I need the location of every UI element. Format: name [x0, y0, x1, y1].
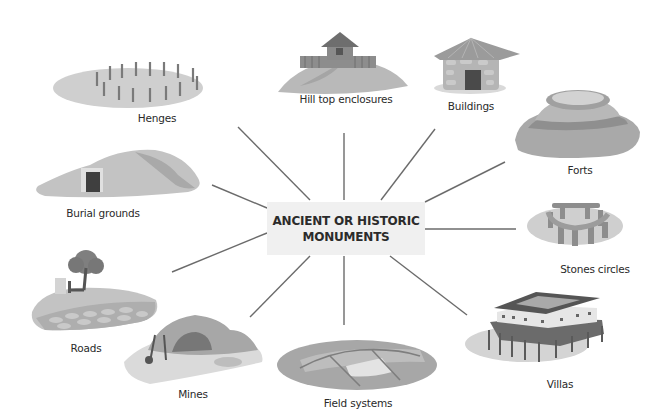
node-label-henges: Henges [138, 112, 176, 124]
node-label-field: Field systems [324, 397, 392, 409]
center-topic-box: ANCIENT OR HISTORIC MONUMENTS [267, 202, 425, 255]
node-label-mines: Mines [178, 388, 208, 400]
connector-henges [238, 127, 310, 200]
stone-circles-illustration [527, 203, 623, 246]
buildings-illustration [434, 38, 520, 94]
node-label-villas: Villas [547, 378, 573, 390]
connector-mines [250, 256, 310, 317]
henges-illustration [53, 62, 203, 108]
center-topic-line2: MONUMENTS [302, 229, 389, 245]
center-topic-line1: ANCIENT OR HISTORIC [272, 213, 419, 229]
diagram-canvas: ANCIENT OR HISTORIC MONUMENTS Henges Hil… [0, 0, 652, 418]
hilltop-illustration [278, 32, 408, 94]
villas-illustration [465, 292, 604, 362]
roads-illustration [32, 250, 158, 330]
connector-forts [425, 162, 505, 202]
mines-illustration [124, 315, 263, 384]
field-systems-illustration [277, 340, 437, 390]
connector-roads [172, 233, 267, 272]
connector-villas [390, 256, 467, 315]
node-label-stones: Stones circles [560, 263, 630, 275]
node-label-hilltop: Hill top enclosures [299, 93, 392, 105]
node-label-roads: Roads [71, 342, 102, 354]
forts-illustration [515, 90, 640, 158]
connector-burial [212, 185, 267, 208]
node-label-burial: Burial grounds [66, 207, 140, 219]
connector-buildings [381, 129, 435, 200]
burial-grounds-illustration [36, 150, 200, 198]
node-label-buildings: Buildings [448, 100, 494, 112]
node-label-forts: Forts [568, 164, 593, 176]
